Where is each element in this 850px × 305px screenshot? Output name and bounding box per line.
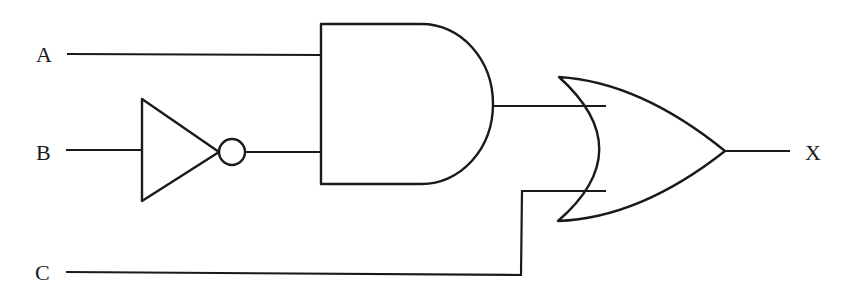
input-label-c: C [35, 260, 50, 285]
wire-c-to-or [66, 191, 606, 275]
wire-a-to-and [67, 54, 321, 55]
not-gate [142, 99, 219, 201]
logic-circuit-diagram: A B C X [0, 0, 850, 305]
input-label-a: A [36, 42, 52, 67]
not-gate-bubble [219, 139, 245, 165]
and-gate [321, 24, 493, 184]
output-label-x: X [805, 140, 821, 165]
input-label-b: B [36, 140, 51, 165]
or-gate [558, 77, 725, 221]
